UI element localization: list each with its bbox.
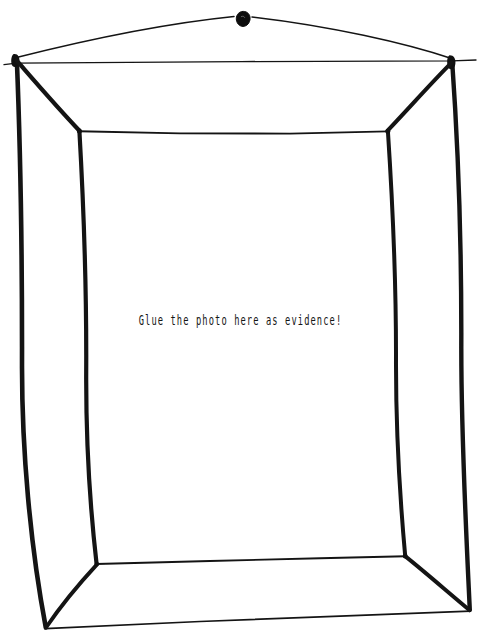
nail-icon (236, 11, 250, 26)
frame-mitre-top-left (17, 60, 80, 130)
frame-mitre-bottom-left (46, 565, 96, 627)
frame-outer-bottom-edge (45, 611, 470, 628)
photo-drop-area[interactable] (83, 134, 402, 561)
frame-outer-left-edge (17, 59, 46, 628)
frame-inner-knot-top-right (385, 129, 390, 134)
hanging-wire-right-span (252, 17, 452, 59)
frame-inner-knot-bottom-left (95, 562, 99, 566)
sketch-canvas: Glue the photo here as evidence! (0, 0, 481, 632)
frame-mitre-top-right (388, 63, 452, 131)
hanging-wire-left-span (17, 17, 235, 58)
frame-outer-top-edge (4, 60, 476, 65)
nail-group (236, 11, 250, 26)
frame-inner-knot-bottom-right (403, 554, 408, 559)
hanging-wire-group (17, 17, 452, 59)
frame-inner-knot-top-left (77, 129, 82, 134)
frame-inner-top-edge (79, 131, 388, 133)
frame-mitre-bottom-right (405, 556, 469, 610)
frame-outer-right-edge (452, 62, 470, 610)
picture-frame-drawing (0, 0, 481, 632)
